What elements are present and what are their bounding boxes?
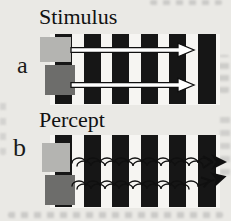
stimulus-dark-square [45, 65, 75, 95]
percept-panel [42, 135, 228, 208]
stimulus-panel [40, 34, 220, 105]
figure-canvas: Stimulus a Percept b [0, 0, 231, 221]
grating-field [50, 135, 220, 208]
percept-dark-square [45, 175, 75, 205]
stimulus-light-square [40, 37, 71, 62]
grating-field [50, 34, 220, 105]
figure-graphics [0, 0, 231, 221]
percept-light-square [42, 143, 70, 172]
